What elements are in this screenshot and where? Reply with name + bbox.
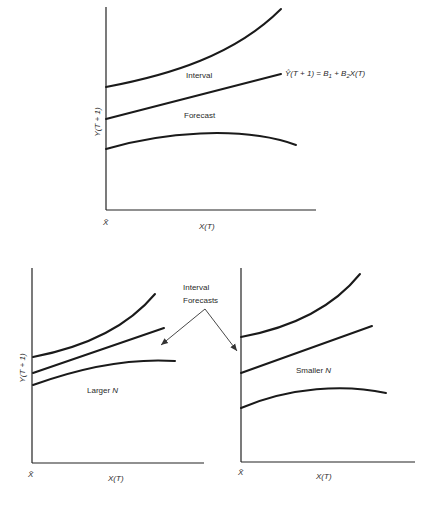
regression-equation: Ŷ(T + 1) = B1 + B2X(T) [285, 69, 366, 79]
left-upper-bound-curve [33, 294, 155, 357]
top-panel: Interval Forecast Ŷ(T + 1) = B1 + B2X(T)… [93, 7, 366, 231]
annotation-line-1: Interval [183, 283, 209, 292]
top-x-axis-label: X(T) [198, 222, 215, 231]
top-origin-label: X̄ [102, 218, 109, 227]
annotation-line-2: Forecasts [183, 296, 218, 305]
arrow-to-larger-n-icon [161, 309, 205, 345]
right-upper-bound-curve [241, 274, 360, 337]
left-origin-label: X̄ [27, 470, 34, 479]
right-origin-label: X̄ [237, 468, 244, 477]
top-forecast-label: Forecast [184, 111, 216, 120]
top-y-axis-label: Y(T + 1) [93, 107, 102, 136]
left-y-axis-label: Y(T + 1) [18, 353, 27, 382]
right-lower-bound-curve [241, 388, 386, 408]
smaller-n-label: Smaller N [296, 366, 331, 375]
bottom-right-panel: Smaller N X̄ X(T) [237, 268, 415, 481]
top-lower-bound-curve [106, 133, 296, 149]
left-lower-bound-curve [33, 360, 175, 385]
forecast-interval-diagram: Interval Forecast Ŷ(T + 1) = B1 + B2X(T)… [0, 0, 429, 505]
top-interval-label: Interval [186, 71, 212, 80]
right-x-axis-label: X(T) [315, 472, 332, 481]
left-x-axis-label: X(T) [107, 474, 124, 483]
interval-forecasts-annotation: Interval Forecasts [161, 283, 237, 351]
larger-n-label: Larger N [87, 386, 118, 395]
arrow-to-smaller-n-icon [205, 309, 237, 351]
bottom-left-panel: Larger N Y(T + 1) X̄ X(T) [18, 268, 204, 483]
